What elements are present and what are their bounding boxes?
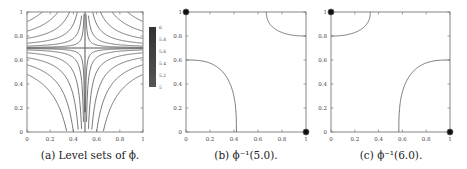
- svg-text:0.6: 0.6: [14, 57, 23, 63]
- svg-text:0.2: 0.2: [173, 105, 182, 111]
- svg-text:0.6: 0.6: [398, 136, 407, 142]
- svg-text:1: 1: [20, 9, 24, 15]
- svg-text:0: 0: [25, 136, 29, 142]
- level-curve: [328, 9, 453, 135]
- svg-text:0.2: 0.2: [46, 136, 55, 142]
- svg-text:0.8: 0.8: [422, 136, 431, 142]
- plot-phi-inverse-5: 00.20.40.60.8100.20.40.60.81: [160, 0, 320, 145]
- svg-text:0.4: 0.4: [69, 136, 78, 142]
- svg-text:1: 1: [179, 9, 183, 15]
- level-curve: [183, 9, 309, 135]
- contour-lines: [27, 12, 143, 132]
- svg-text:0: 0: [179, 129, 183, 135]
- svg-text:0.2: 0.2: [318, 105, 327, 111]
- plot-level-sets: 00.20.40.60.8100.20.40.60.81 65.85.65.45…: [0, 0, 170, 145]
- svg-text:0.8: 0.8: [173, 33, 182, 39]
- svg-text:0.8: 0.8: [278, 136, 287, 142]
- svg-text:0.6: 0.6: [318, 57, 327, 63]
- axes-c: 00.20.40.60.8100.20.40.60.81: [318, 9, 452, 142]
- svg-text:0: 0: [20, 129, 24, 135]
- svg-text:1: 1: [324, 9, 328, 15]
- svg-text:0.4: 0.4: [173, 81, 182, 87]
- svg-text:0.8: 0.8: [14, 33, 23, 39]
- axes-b: 00.20.40.60.8100.20.40.60.81: [173, 9, 308, 142]
- svg-text:0: 0: [324, 129, 328, 135]
- caption-b: (b) ϕ⁻¹(5.0).: [196, 149, 296, 161]
- caption-a: (a) Level sets of ϕ.: [30, 149, 150, 161]
- svg-text:0.2: 0.2: [14, 105, 23, 111]
- svg-text:1: 1: [448, 136, 452, 142]
- corner-point: [183, 9, 189, 15]
- svg-text:1: 1: [141, 136, 145, 142]
- corner-point: [328, 9, 334, 15]
- svg-text:0.6: 0.6: [254, 136, 263, 142]
- svg-text:0: 0: [184, 136, 188, 142]
- svg-text:0.8: 0.8: [318, 33, 327, 39]
- svg-text:0.2: 0.2: [350, 136, 359, 142]
- svg-text:0.8: 0.8: [115, 136, 124, 142]
- svg-text:0.4: 0.4: [374, 136, 383, 142]
- svg-text:0.6: 0.6: [173, 57, 182, 63]
- caption-c: (c) ϕ⁻¹(6.0).: [341, 149, 441, 161]
- svg-text:0.4: 0.4: [230, 136, 239, 142]
- corner-point: [447, 129, 453, 135]
- svg-text:0.6: 0.6: [92, 136, 101, 142]
- svg-text:0: 0: [329, 136, 333, 142]
- svg-text:0.2: 0.2: [206, 136, 215, 142]
- plot-phi-inverse-6: 00.20.40.60.8100.20.40.60.81: [305, 0, 467, 145]
- svg-text:0.4: 0.4: [14, 81, 23, 87]
- svg-text:0.4: 0.4: [318, 81, 327, 87]
